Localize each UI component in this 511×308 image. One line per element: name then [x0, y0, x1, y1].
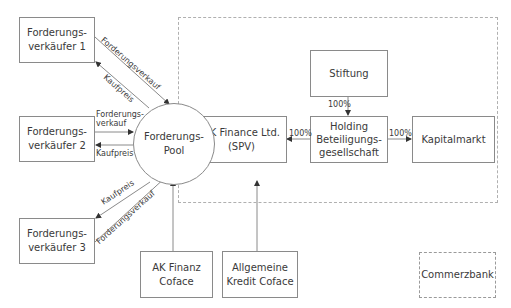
allgemeine-kredit-coface-label: Allgemeine Kredit Coface [226, 261, 293, 289]
seller-3-box: Forderungs- verkäufer 3 [19, 218, 95, 264]
commerzbank-group-boundary [178, 17, 498, 203]
ak-finanz-coface-label: AK Finanz Coface [152, 261, 200, 289]
seller-2-label: Forderungs- verkäufer 2 [27, 125, 87, 153]
edge-label-holding-kapitalmarkt: 100% [389, 129, 412, 138]
edge-label-stiftung-holding: 100% [328, 100, 351, 109]
edge-label-seller2-sale: Forderungs- verkauf [96, 110, 144, 128]
ak-finanz-coface-box: AK Finanz Coface [140, 251, 213, 298]
commerzbank-label: Commerzbank [421, 268, 494, 282]
stiftung-label: Stiftung [329, 67, 368, 81]
seller-1-label: Forderungs- verkäufer 1 [27, 26, 87, 54]
kapitalmarkt-label: Kapitalmarkt [421, 133, 485, 147]
pool-label: Forderungs- Pool [144, 130, 204, 158]
pool-circle: Forderungs- Pool [133, 103, 215, 185]
edge-label-holding-spv: 100% [289, 129, 312, 138]
edge-label-seller2-price: Kaufpreis [96, 149, 133, 158]
holding-label: Holding Beteiligungs- gesellschaft [316, 120, 382, 159]
seller-2-box: Forderungs- verkäufer 2 [19, 116, 95, 162]
allgemeine-kredit-coface-box: Allgemeine Kredit Coface [222, 251, 298, 298]
stiftung-box: Stiftung [310, 50, 388, 97]
holding-box: Holding Beteiligungs- gesellschaft [310, 116, 388, 163]
commerzbank-legend-box: Commerzbank [419, 252, 496, 298]
seller-3-label: Forderungs- verkäufer 3 [27, 227, 87, 255]
seller-1-box: Forderungs- verkäufer 1 [19, 17, 95, 63]
kapitalmarkt-box: Kapitalmarkt [412, 116, 495, 163]
